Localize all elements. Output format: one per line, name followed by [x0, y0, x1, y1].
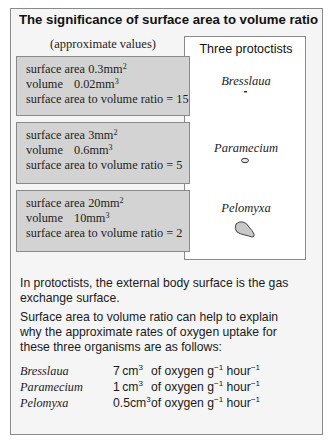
- approximate-values-caption: (approximate values): [38, 37, 168, 52]
- ratio-row: surface area to volume ratio = 2: [26, 226, 189, 241]
- rate-unit: of oxygen g−1 hour−1: [151, 363, 260, 379]
- ratio-row: surface area to volume ratio = 5: [26, 158, 189, 173]
- volume-row: volume10mm3: [26, 211, 189, 226]
- volume-label: volume: [26, 143, 74, 158]
- surface-area-label: surface area: [26, 62, 85, 76]
- organism-label-paramecium: Paramecium: [185, 141, 307, 156]
- surface-area-label: surface area: [26, 196, 85, 210]
- ratio-box-paramecium: surface area 3mm2 volume0.6mm3 surface a…: [16, 122, 190, 184]
- protoctists-panel-title: Three protoctists: [185, 42, 307, 56]
- ratio-box-bresslaua: surface area 0.3mm2 volume0.02mm3 surfac…: [16, 56, 190, 116]
- rate-organism: Pelomyxa: [20, 395, 68, 411]
- bresslaua-shape-icon: [243, 90, 249, 94]
- surface-area-label: surface area: [26, 128, 85, 142]
- organism-label-bresslaua: Bresslaua: [185, 74, 307, 89]
- volume-value: 0.6: [74, 143, 89, 157]
- surface-area-unit: mm: [100, 196, 119, 210]
- surface-area-exponent: 2: [123, 62, 127, 71]
- volume-unit: mm: [89, 143, 108, 157]
- surface-area-exponent: 2: [113, 128, 117, 137]
- surface-area-row: surface area 20mm2: [26, 196, 189, 211]
- organism-label-pelomyxa: Pelomyxa: [185, 201, 307, 216]
- ratio-value: 5: [176, 158, 182, 172]
- surface-area-exponent: 2: [120, 196, 124, 205]
- ratio-label: surface area to volume ratio =: [26, 226, 173, 240]
- volume-unit: mm: [96, 77, 115, 91]
- volume-exponent: 3: [115, 77, 119, 86]
- volume-row: volume0.6mm3: [26, 143, 189, 158]
- volume-value: 0.02: [74, 77, 96, 91]
- rate-value: 0.5cm3: [113, 395, 151, 411]
- volume-exponent: 3: [109, 143, 113, 152]
- ratio-label: surface area to volume ratio =: [26, 92, 173, 106]
- surface-area-row: surface area 0.3mm2: [26, 62, 189, 77]
- surface-area-unit: mm: [94, 128, 113, 142]
- rate-unit: of oxygen g−1 hour−1: [151, 395, 260, 411]
- paragraph-explanation: Surface area to volume ratio can help to…: [20, 310, 290, 355]
- volume-row: volume0.02mm3: [26, 77, 189, 92]
- protoctists-panel: Three protoctists Bresslaua Paramecium P…: [184, 36, 306, 260]
- surface-area-value: 20: [88, 196, 100, 210]
- volume-label: volume: [26, 211, 74, 226]
- ratio-row: surface area to volume ratio = 15: [26, 92, 189, 107]
- surface-area-value: 0.3: [88, 62, 103, 76]
- rate-value: 1 cm3: [113, 379, 143, 395]
- surface-area-row: surface area 3mm2: [26, 128, 189, 143]
- figure-title: The significance of surface area to volu…: [19, 12, 318, 27]
- volume-label: volume: [26, 77, 74, 92]
- volume-value: 10: [74, 211, 86, 225]
- ratio-value: 15: [176, 92, 188, 106]
- pelomyxa-shape-icon: [232, 220, 258, 240]
- surface-area-unit: mm: [104, 62, 123, 76]
- volume-unit: mm: [86, 211, 105, 225]
- rate-organism: Bresslaua: [20, 363, 69, 379]
- ratio-box-pelomyxa: surface area 20mm2 volume10mm3 surface a…: [16, 190, 190, 252]
- paramecium-shape-icon: [240, 157, 250, 164]
- rate-organism: Paramecium: [20, 379, 83, 395]
- paragraph-gas-exchange: In protoctists, the external body surfac…: [20, 276, 310, 306]
- rate-unit: of oxygen g−1 hour−1: [151, 379, 260, 395]
- ratio-label: surface area to volume ratio =: [26, 158, 173, 172]
- ratio-value: 2: [176, 226, 182, 240]
- rate-value: 7 cm3: [113, 363, 143, 379]
- volume-exponent: 3: [105, 211, 109, 220]
